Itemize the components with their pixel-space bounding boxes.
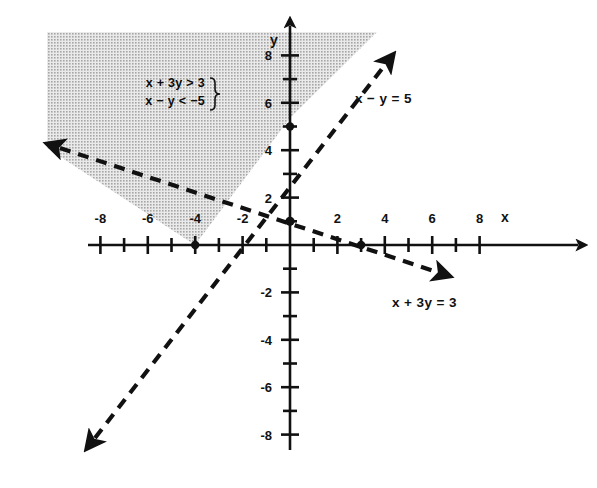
- y-tick-label--6: -6: [260, 380, 272, 395]
- line-label-x-plus-3y: x + 3y = 3: [392, 295, 457, 310]
- point-0-1: [285, 217, 294, 226]
- point-3-0: [357, 241, 365, 249]
- coordinate-plane-svg: -8 -6 -4 -2 2 4 6 8 8 6 4 2 -2 -4 -6 -8 …: [0, 0, 597, 488]
- x-axis-label: x: [501, 209, 509, 225]
- inequality-line-1: x + 3y > 3: [146, 76, 205, 90]
- line-label-x-minus-y: x − y = 5: [355, 91, 412, 106]
- y-tick-label-2: 2: [265, 191, 272, 206]
- y-tick-label-4: 4: [265, 143, 273, 158]
- point--4-0: [191, 241, 199, 249]
- y-tick-label-8: 8: [265, 48, 272, 63]
- y-tick-label-6: 6: [265, 96, 272, 111]
- y-axis-label: y: [270, 32, 278, 48]
- x-tick-label-2: 2: [334, 211, 341, 226]
- inequality-line-2: x − y < −5: [145, 94, 205, 108]
- x-tick-label--4: -4: [189, 211, 201, 226]
- x-tick-label--8: -8: [95, 211, 107, 226]
- x-tick-label--6: -6: [142, 211, 154, 226]
- x-tick-label--2: -2: [237, 211, 249, 226]
- y-tick-label--4: -4: [260, 333, 272, 348]
- x-tick-label-4: 4: [381, 211, 389, 226]
- x-tick-label-6: 6: [429, 211, 436, 226]
- y-tick-label--2: -2: [260, 285, 272, 300]
- point-0-5: [286, 122, 294, 130]
- x-tick-label-8: 8: [476, 211, 483, 226]
- y-tick-label--8: -8: [260, 428, 272, 443]
- graph-figure: -8 -6 -4 -2 2 4 6 8 8 6 4 2 -2 -4 -6 -8 …: [0, 0, 597, 488]
